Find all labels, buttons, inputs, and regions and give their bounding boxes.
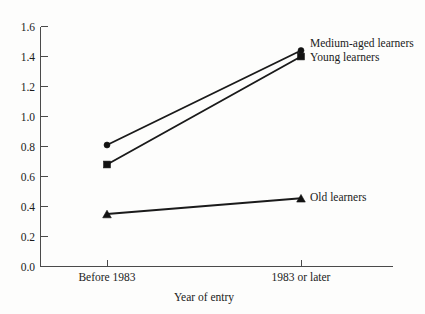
data-point-young-before-1983: [104, 161, 111, 168]
series-label-young-learners: Young learners: [310, 51, 380, 64]
y-tick-label: 0.8: [21, 141, 36, 153]
y-tick-label: 0.4: [21, 201, 36, 213]
series-old-learners: [103, 194, 306, 217]
x-axis-title: Year of entry: [174, 291, 234, 304]
series-line-young: [107, 57, 301, 165]
series-young-learners: [104, 53, 305, 168]
series-medium-aged-learners: [104, 48, 304, 149]
series-line-old: [107, 198, 301, 214]
series-line-medium-aged: [107, 51, 301, 146]
series-label-old-learners: Old learners: [310, 191, 367, 203]
y-tick-label: 1.6: [21, 21, 36, 33]
y-tick-label: 0.6: [21, 171, 36, 183]
data-point-young-1983-or-later: [298, 53, 305, 60]
y-tick-label: 0.0: [21, 261, 36, 273]
y-tick-label: 1.2: [21, 81, 36, 93]
y-tick-marks: [41, 27, 48, 267]
series-label-medium-aged-learners: Medium-aged learners: [310, 37, 414, 50]
chart-figure: 1.6 1.4 1.2 1.0 0.8 0.6 0.4 0.2 0.0 Befo…: [0, 0, 425, 314]
x-axis-tick-labels: Before 1983 1983 or later: [78, 271, 330, 283]
series-labels-group: Medium-aged learners Young learners Old …: [310, 37, 414, 203]
data-point-medium-aged-1983-or-later: [298, 48, 304, 54]
line-chart-canvas: 1.6 1.4 1.2 1.0 0.8 0.6 0.4 0.2 0.0 Befo…: [0, 0, 425, 314]
y-axis-tick-labels: 1.6 1.4 1.2 1.0 0.8 0.6 0.4 0.2 0.0: [21, 21, 36, 273]
data-point-medium-aged-before-1983: [104, 142, 110, 148]
x-tick-label-before-1983: Before 1983: [78, 271, 135, 283]
y-tick-label: 0.2: [21, 231, 36, 243]
x-tick-marks: [108, 260, 302, 267]
x-tick-label-1983-or-later: 1983 or later: [272, 271, 331, 283]
y-tick-label: 1.4: [21, 51, 36, 63]
y-tick-label: 1.0: [21, 111, 36, 123]
